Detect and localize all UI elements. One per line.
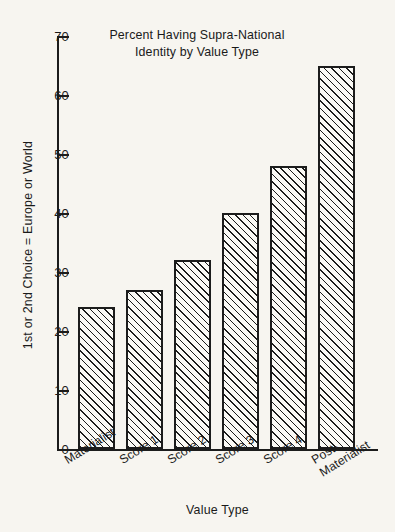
chart-title: Percent Having Supra-National Identity b…	[72, 27, 322, 60]
y-tick-mark	[59, 213, 69, 215]
y-axis-title: 1st or 2nd Choice = Europe or World	[21, 85, 35, 405]
y-tick-mark	[59, 272, 69, 274]
chart-title-line-2: Identity by Value Type	[135, 45, 259, 59]
y-tick-mark	[59, 154, 69, 156]
bar-chart-figure: 70 60 50 40 30 20 10 0	[0, 0, 395, 532]
bar-post-materialist	[318, 66, 355, 450]
bar-score-1	[126, 290, 163, 449]
y-tick-mark	[59, 36, 69, 38]
y-tick-mark	[59, 95, 69, 97]
y-axis-line	[57, 36, 59, 451]
y-tick-mark	[59, 390, 69, 392]
y-tick-mark	[59, 331, 69, 333]
bar-score-3	[222, 213, 259, 449]
bar-score-4	[270, 166, 307, 449]
x-axis-title: Value Type	[57, 503, 378, 517]
chart-title-line-1: Percent Having Supra-National	[109, 28, 284, 42]
bar-score-2	[174, 260, 211, 449]
